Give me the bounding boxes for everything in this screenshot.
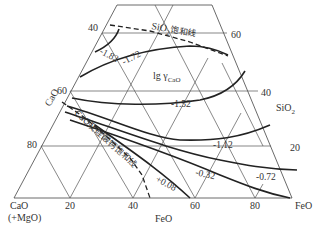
ternary-diagram: 40 60 80 60 40 20 20 40 60 80 CaO (+MgO)… [0, 0, 326, 226]
right-tick-60: 60 [231, 29, 241, 40]
isoline-labels: -1.82 -1.72 -1.52 -1.12 -0.72 -0.32 +0.0… [98, 46, 276, 193]
bottom-tick-60: 60 [190, 200, 200, 211]
isoline-label-0.72: -0.72 [256, 172, 276, 182]
bottom-tick-80: 80 [250, 200, 260, 211]
corner-cao-mgo: (+MgO) [8, 212, 41, 224]
isoline-label-1.82: -1.82 [98, 46, 120, 64]
left-axis-ticks: 40 60 80 [27, 22, 98, 150]
corner-feo: FeO [295, 200, 312, 211]
right-tick-20: 20 [290, 142, 300, 153]
bottom-tick-20: 20 [65, 200, 75, 211]
isoline-label-0.08: +0.08 [154, 174, 178, 193]
grid-right-parallel [41, 5, 263, 198]
left-tick-80: 80 [27, 139, 37, 150]
grid-left-parallel [41, 5, 263, 198]
isoline-label-1.12: -1.12 [213, 140, 233, 150]
corner-cao: CaO [10, 200, 28, 211]
field-label-lg-gamma-cao: lg γCaO [153, 70, 181, 84]
sio2-saturation-label: SiO2饱和线 [150, 20, 198, 42]
bottom-tick-40: 40 [128, 200, 138, 211]
right-tick-40: 40 [261, 87, 271, 98]
left-tick-40: 40 [88, 22, 98, 33]
axis-title-sio2: SiO2 [276, 102, 296, 116]
bottom-axis-ticks: 20 40 60 80 [65, 200, 260, 211]
isoline-label-1.52: -1.52 [171, 99, 191, 109]
cao-saturation-label: CaO及硅酸钙饱和线 [73, 108, 140, 170]
isoline-label-0.32: -0.32 [195, 167, 217, 181]
isoline-label-1.72: -1.72 [120, 49, 142, 67]
axis-title-feo: FeO [155, 213, 172, 224]
triangle-frame [14, 5, 292, 198]
